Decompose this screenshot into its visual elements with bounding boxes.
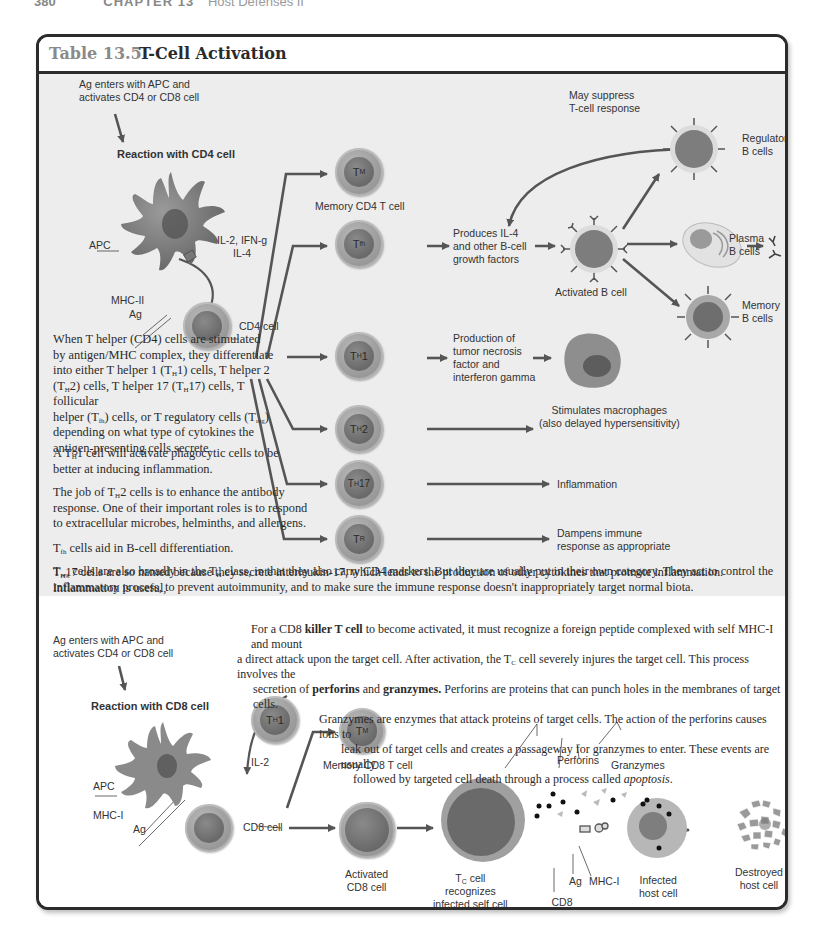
cd8-molecule-line-2: molecule (541, 909, 583, 910)
cd4-heading: Reaction with CD4 cell (117, 148, 235, 161)
para-text: and (360, 682, 383, 696)
table-number: Table 13.5 (49, 44, 142, 63)
cell-symbol: T (350, 423, 357, 435)
cd4-paragraph-4: Tfh cells aid in B-cell differentiation. (53, 541, 233, 557)
cd8-cell-icon (185, 804, 233, 852)
page-number: 380 (34, 0, 56, 9)
apc-label: APC (89, 239, 111, 252)
cytokines-line-1: IL-2, IFN-g (217, 234, 267, 247)
p3-text: The job of T (53, 485, 115, 499)
th2-cell-icon: TH2 (335, 405, 383, 453)
p1-text: 2) cells, T helper 17 (T (70, 379, 184, 393)
ag-label-2: Ag (569, 875, 582, 888)
th1-line-1: Production of (453, 332, 535, 345)
macrophage-label: Stimulates macrophages (also delayed hyp… (539, 404, 680, 430)
p2-text: A T (53, 446, 72, 460)
intro-line-1: Ag enters with APC and (79, 78, 199, 91)
tc-cell-label: TC cell recognizes infected self cell (433, 872, 508, 910)
receptor-complex-icon (579, 820, 619, 840)
infected-line-2: host cell (639, 887, 678, 900)
cytokines-label: IL-2, IFN-g IL-4 (217, 234, 267, 260)
p6-text: class, in that they also carry CD4 marke… (221, 564, 773, 578)
p1-text: ) (265, 410, 269, 424)
tc-suffix: cell (467, 872, 486, 884)
destroyed-line-2: host cell (735, 879, 783, 892)
cell-suffix: 1 (362, 350, 368, 362)
ag-label-cd8: Ag (133, 823, 146, 836)
tfh-line-3: growth factors (453, 253, 527, 266)
para-text: followed by targeted cell death through … (353, 772, 624, 786)
p1-text: (T (53, 379, 65, 393)
para-text: For a CD8 (251, 622, 305, 636)
para-text: . (670, 772, 673, 786)
para-text: secretion of (253, 682, 312, 696)
cell-symbol: T (353, 533, 360, 545)
table-title-bar: Table 13.5 T-Cell Activation (39, 37, 785, 74)
plasma-line-1: Plasma (729, 232, 764, 245)
th1-line-4: interferon gamma (453, 371, 535, 384)
apc-cell-icon (109, 166, 239, 286)
p6-text: cells are also broadly in the T (69, 564, 216, 578)
tc-line-3: infected self cell (433, 898, 508, 910)
infected-host-cell-icon (623, 794, 693, 864)
activated-cd8-cell-icon (339, 802, 395, 858)
table-title: T-Cell Activation (139, 44, 287, 63)
cd8-heading: Reaction with CD8 cell (91, 700, 209, 713)
macrophage-icon (557, 328, 627, 392)
cd8-para-line-5: leak out of target cells and creates a p… (229, 742, 788, 772)
regulatory-line-2: B cells (742, 145, 788, 158)
suppress-label: May suppress T-cell response (569, 89, 640, 115)
destroyed-label: Destroyed host cell (735, 866, 783, 892)
cd8-molecule-label: CD8 molecule (541, 896, 583, 910)
cd8-intro-label: Ag enters with APC and activates CD4 or … (53, 634, 173, 660)
p4-text: cells aid in B-cell differentiation. (66, 541, 233, 555)
p1-text: depending on what type of cytokines the (53, 425, 254, 439)
cell-symbol: T (353, 166, 360, 178)
activated-line-2: CD8 cell (345, 881, 388, 894)
th1-cell-icon: TH1 (335, 332, 383, 380)
apc-cell-icon-cd8 (109, 718, 219, 818)
th1-line-2: tumor necrosis (453, 345, 535, 358)
intro-line-1: Ag enters with APC and (53, 634, 173, 647)
regulatory-line-1: Regulatory (742, 132, 788, 145)
para-bold: killer T cell (305, 622, 363, 636)
cd8-cell-label: CD8 cell (243, 821, 283, 834)
chapter-label: CHAPTER 13 (103, 0, 194, 9)
inflammation-label: Inflammation (557, 478, 617, 491)
suppress-line-1: May suppress (569, 89, 640, 102)
treg-cell-icon: TR (335, 515, 383, 563)
cd4-section: Ag enters with APC and activates CD4 or … (39, 74, 785, 596)
cd4-paragraph-3: The job of TH2 cells is to enhance the a… (53, 485, 323, 532)
para-bold: perforins (312, 682, 359, 696)
p1-text: 1) cells, T helper 2 (177, 363, 270, 377)
activated-b-cell-icon (559, 214, 629, 284)
th1-effect-label: Production of tumor necrosis factor and … (453, 332, 535, 384)
para-italic: apoptosis (624, 772, 670, 786)
macrophage-line-1: Stimulates macrophages (539, 404, 680, 417)
p1-text: When T helper (CD4) cells are stimulated (53, 332, 260, 346)
memory-cd4-label: Memory CD4 T cell (315, 200, 404, 213)
cd8-paragraph: For a CD8 killer T cell to become activa… (229, 622, 788, 787)
para-text: a direct attack upon the target cell. Af… (237, 652, 511, 666)
regulatory-b-cell-icon (659, 114, 729, 184)
chapter-title: Host Defenses II (208, 0, 304, 9)
regulatory-b-label: Regulatory B cells (742, 132, 788, 158)
dampens-line-1: Dampens immune (557, 527, 670, 540)
memory-b-line-1: Memory (742, 299, 780, 312)
p1-text: into either T helper 1 (T (53, 363, 172, 377)
tfh-effect-label: Produces IL-4 and other B-cell growth fa… (453, 227, 527, 266)
activated-b-cell-label: Activated B cell (555, 286, 627, 299)
infected-label: Infected host cell (639, 874, 678, 900)
cd8-para-line-6: followed by targeted cell death through … (229, 772, 788, 787)
intro-line-2: activates CD4 or CD8 cell (79, 91, 199, 104)
th17-cell-icon: TH17 (335, 460, 383, 508)
cd8-para-line-4: Granzymes are enzymes that attack protei… (229, 712, 788, 742)
destroyed-line-1: Destroyed (735, 866, 783, 879)
mhc-i-label-2: MHC-I (589, 875, 619, 888)
mhc-ii-label: MHC-II (111, 294, 144, 307)
plasma-b-label: Plasma B cells (729, 232, 764, 258)
infected-line-1: Infected (639, 874, 678, 887)
p1-text: ) cells, or T regulatory cells (T (105, 410, 256, 424)
activated-line-1: Activated (345, 868, 388, 881)
cell-suffix: 2 (362, 423, 368, 435)
